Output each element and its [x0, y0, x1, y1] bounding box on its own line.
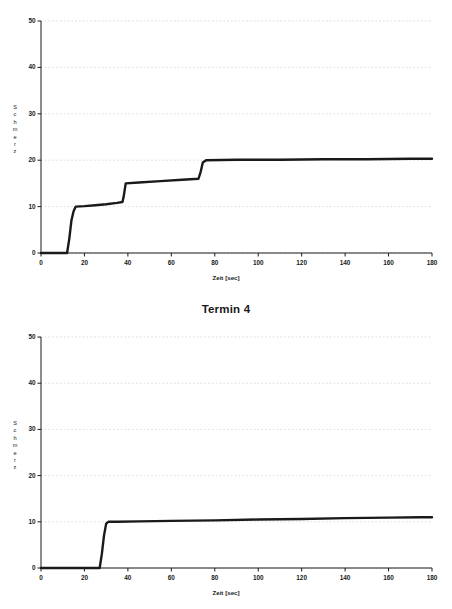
x-axis-tick-label: 60	[159, 574, 183, 581]
y-axis-tick-label: 10	[14, 203, 36, 210]
y-axis-tick-label: 40	[14, 63, 36, 70]
x-axis-tick-label: 140	[333, 574, 357, 581]
x-axis-title-top: Zeit [sec]	[0, 274, 452, 281]
x-axis-tick-label: 120	[290, 259, 314, 266]
page-title: Termin 4	[0, 303, 452, 315]
y-axis-title-letter: h	[9, 435, 21, 442]
y-axis-tick-label: 30	[14, 425, 36, 432]
x-axis-tick-label: 160	[377, 259, 401, 266]
y-axis-title-letter: e	[9, 450, 21, 457]
x-axis-tick-label: 20	[72, 574, 96, 581]
y-axis-title-letter: m	[9, 126, 21, 133]
x-axis-tick-label: 120	[290, 574, 314, 581]
y-axis-tick-label: 0	[14, 249, 36, 256]
x-axis-tick-label: 20	[72, 259, 96, 266]
y-axis-tick-label: 20	[14, 472, 36, 479]
plot-svg-top	[0, 0, 452, 295]
x-axis-tick-label: 160	[377, 574, 401, 581]
y-axis-title-letter: z	[9, 148, 21, 155]
y-axis-tick-label: 40	[14, 379, 36, 386]
x-axis-tick-label: 40	[116, 574, 140, 581]
y-axis-title-letter: r	[9, 457, 21, 464]
x-axis-tick-label: 80	[203, 574, 227, 581]
y-axis-tick-label: 0	[14, 564, 36, 571]
data-series-line	[41, 517, 432, 568]
x-axis-tick-label: 140	[333, 259, 357, 266]
x-axis-tick-label: 100	[246, 259, 270, 266]
x-axis-tick-label: 100	[246, 574, 270, 581]
y-axis-tick-label: 50	[14, 333, 36, 340]
plot-area-top: S c h m e r z Zeit [sec] 010203040500204…	[0, 0, 452, 295]
y-axis-title-letter: e	[9, 134, 21, 141]
chart-top: S c h m e r z Zeit [sec] 010203040500204…	[0, 0, 452, 295]
x-axis-tick-label: 0	[29, 574, 53, 581]
data-series-line	[41, 159, 432, 253]
x-axis-tick-label: 180	[420, 259, 444, 266]
chart-bottom: S c h m e r z Zeit [sec] 010203040500204…	[0, 325, 452, 609]
y-axis-title-letter: m	[9, 442, 21, 449]
figure-page: S c h m e r z Zeit [sec] 010203040500204…	[0, 0, 452, 609]
y-axis-title-letter: h	[9, 119, 21, 126]
y-axis-tick-label: 50	[14, 17, 36, 24]
x-axis-tick-label: 40	[116, 259, 140, 266]
x-axis-title-bottom: Zeit [sec]	[0, 589, 452, 596]
x-axis-tick-label: 180	[420, 574, 444, 581]
plot-svg-bottom	[0, 325, 452, 609]
x-axis-tick-label: 0	[29, 259, 53, 266]
y-axis-tick-label: 10	[14, 518, 36, 525]
x-axis-tick-label: 60	[159, 259, 183, 266]
y-axis-title-letter: r	[9, 141, 21, 148]
y-axis-tick-label: 30	[14, 110, 36, 117]
plot-area-bottom: S c h m e r z Zeit [sec] 010203040500204…	[0, 325, 452, 609]
x-axis-tick-label: 80	[203, 259, 227, 266]
y-axis-tick-label: 20	[14, 156, 36, 163]
